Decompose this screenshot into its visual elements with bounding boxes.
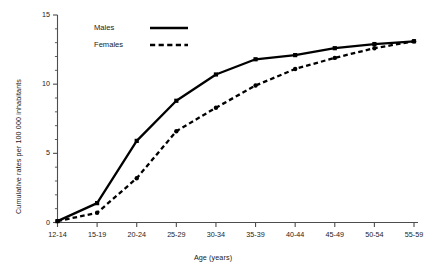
data-point — [333, 46, 337, 50]
data-point — [135, 176, 139, 180]
data-point — [293, 67, 297, 71]
data-point — [253, 57, 257, 61]
data-point — [174, 129, 178, 133]
data-point — [95, 201, 99, 205]
y-tick-label: 15 — [28, 10, 50, 19]
x-axis-ticks — [58, 223, 415, 228]
data-point — [174, 99, 178, 103]
y-tick-label: 5 — [28, 148, 50, 157]
data-point — [214, 72, 218, 76]
x-tick-label: 20-24 — [117, 230, 157, 239]
x-tick-label: 40-44 — [275, 230, 315, 239]
data-point — [412, 39, 416, 43]
y-tick-label: 0 — [28, 218, 50, 227]
x-tick-label: 45-49 — [315, 230, 355, 239]
x-tick-label: 15-19 — [77, 230, 117, 239]
data-series-layer — [55, 39, 416, 223]
data-point — [135, 139, 139, 143]
legend-label-females: Females — [94, 40, 123, 49]
x-tick-label: 50-54 — [354, 230, 394, 239]
data-point — [55, 219, 59, 223]
x-tick-label: 25-29 — [156, 230, 196, 239]
data-point — [253, 83, 257, 87]
x-axis-title: Age (years) — [0, 253, 426, 262]
legend-label-males: Males — [94, 23, 114, 32]
data-point — [372, 46, 376, 50]
x-tick-label: 55-59 — [394, 230, 426, 239]
x-tick-label: 12-14 — [38, 230, 78, 239]
data-point — [333, 56, 337, 60]
y-tick-label: 10 — [28, 79, 50, 88]
y-axis-major-ticks — [53, 15, 58, 223]
legend-line-samples — [150, 28, 188, 45]
data-point — [214, 105, 218, 109]
chart-figure: Cumulative rates per 100 000 inhabitants… — [0, 0, 426, 273]
data-point — [293, 53, 297, 57]
x-tick-label: 30-34 — [196, 230, 236, 239]
series-line-males — [58, 41, 415, 221]
y-axis-title: Cumulative rates per 100 000 inhabitants — [14, 79, 23, 214]
x-tick-label: 35-39 — [236, 230, 276, 239]
data-point — [95, 211, 99, 215]
series-line-females — [58, 41, 415, 221]
data-point — [372, 42, 376, 46]
